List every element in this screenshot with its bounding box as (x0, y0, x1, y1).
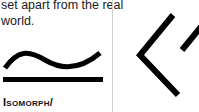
term-label: Isomorph/ (3, 96, 53, 108)
description-line-2: world. (1, 13, 123, 29)
card-description: set apart from the real world. (1, 0, 123, 29)
description-line-1: set apart from the real (1, 0, 123, 13)
glossary-card-isomorph: set apart from the real world. Isomorph/ (0, 0, 112, 112)
code-brackets-icon (130, 10, 199, 100)
isomorphic-symbol-icon (0, 45, 110, 90)
column-divider (112, 0, 113, 112)
